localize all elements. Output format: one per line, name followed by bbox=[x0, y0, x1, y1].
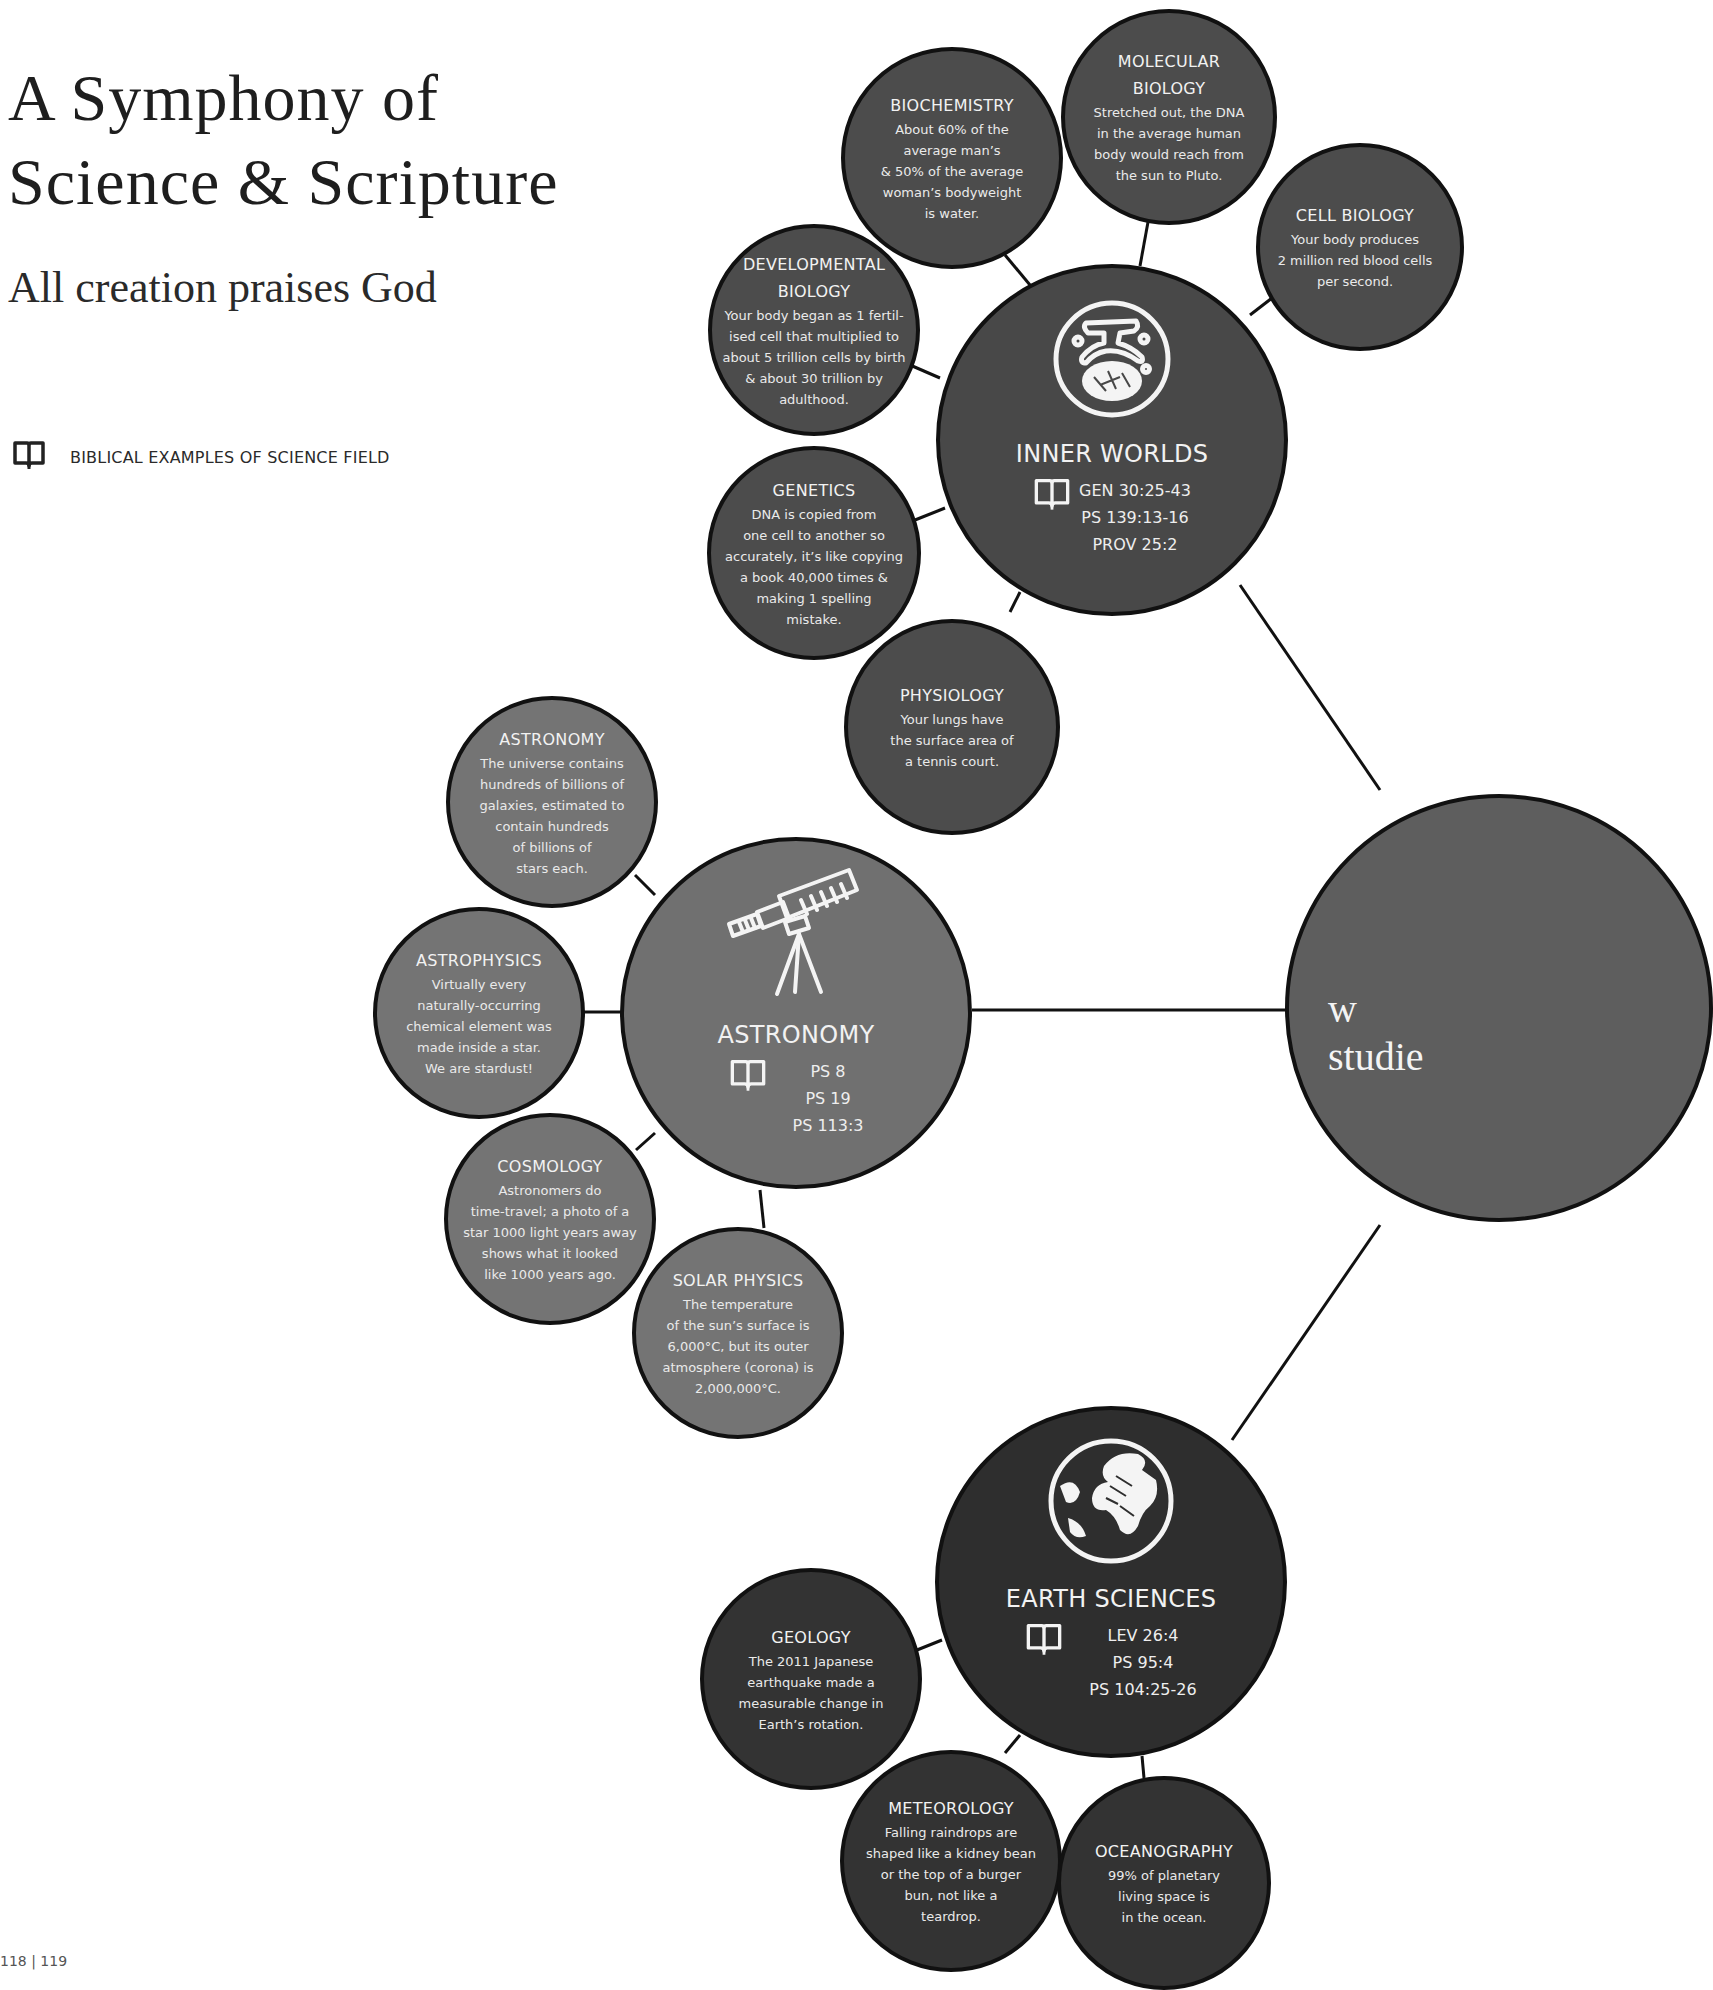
satellite-astronomy: ASTRONOMY The universe contains hundreds… bbox=[446, 696, 658, 908]
satellite-fact: Astronomers do time-travel; a photo of a… bbox=[463, 1180, 637, 1285]
title-line-2: Science & Scripture bbox=[8, 145, 558, 218]
satellite-molecular-biology: MOLECULAR BIOLOGY Stretched out, the DNA… bbox=[1061, 9, 1277, 225]
satellite-title: ASTRONOMY bbox=[499, 726, 604, 753]
satellite-title: SOLAR PHYSICS bbox=[673, 1267, 804, 1294]
satellite-title: MOLECULAR BIOLOGY bbox=[1118, 48, 1220, 102]
page-title: A Symphony of Science & Scripture bbox=[8, 56, 558, 224]
satellite-cell-biology: CELL BIOLOGY Your body produces 2 millio… bbox=[1256, 143, 1464, 351]
open-book-icon bbox=[12, 440, 46, 474]
satellite-fact: The 2011 Japanese earthquake made a meas… bbox=[739, 1651, 884, 1735]
satellite-fact: 99% of planetary living space is in the … bbox=[1108, 1865, 1220, 1928]
scripture-references: LEV 26:4 PS 95:4 PS 104:25-26 bbox=[1025, 1622, 1196, 1703]
satellite-fact: Your lungs have the surface area of a te… bbox=[890, 709, 1013, 772]
main-title: INNER WORLDS bbox=[1016, 439, 1208, 469]
satellite-title: CELL BIOLOGY bbox=[1296, 202, 1414, 229]
open-book-icon bbox=[1025, 1622, 1063, 1660]
scripture-ref: PS 8 bbox=[810, 1058, 845, 1085]
satellite-fact: Falling raindrops are shaped like a kidn… bbox=[866, 1822, 1036, 1927]
scripture-ref: PS 19 bbox=[805, 1085, 850, 1112]
central-text-line-2: studie bbox=[1328, 1034, 1424, 1079]
main-circle-inner-worlds: INNER WORLDS GEN 30:25-43 PS 139:13-16 P… bbox=[936, 264, 1288, 616]
satellite-oceanography: OCEANOGRAPHY 99% of planetary living spa… bbox=[1057, 1776, 1271, 1990]
scripture-ref: PS 139:13-16 bbox=[1081, 504, 1188, 531]
scripture-ref: PS 95:4 bbox=[1113, 1649, 1174, 1676]
satellite-fact: About 60% of the average man’s & 50% of … bbox=[881, 119, 1024, 224]
scripture-ref: GEN 30:25-43 bbox=[1079, 477, 1191, 504]
open-book-icon bbox=[1033, 477, 1071, 515]
scripture-references: PS 8 PS 19 PS 113:3 bbox=[729, 1058, 864, 1139]
satellite-fact: The universe contains hundreds of billio… bbox=[480, 753, 625, 879]
central-text-line-1: w bbox=[1328, 986, 1357, 1031]
satellite-physiology: PHYSIOLOGY Your lungs have the surface a… bbox=[844, 619, 1060, 835]
satellite-title: GEOLOGY bbox=[771, 1624, 851, 1651]
satellite-solar-physics: SOLAR PHYSICS The temperature of the sun… bbox=[632, 1227, 844, 1439]
satellite-fact: Stretched out, the DNA in the average hu… bbox=[1094, 102, 1245, 186]
scripture-ref: PROV 25:2 bbox=[1092, 531, 1177, 558]
cell-icon bbox=[1050, 297, 1174, 425]
main-title: ASTRONOMY bbox=[718, 1020, 875, 1050]
main-title: EARTH SCIENCES bbox=[1006, 1584, 1216, 1614]
scripture-ref: PS 113:3 bbox=[793, 1112, 864, 1139]
satellite-fact: DNA is copied from one cell to another s… bbox=[725, 504, 903, 630]
open-book-icon bbox=[729, 1058, 767, 1096]
satellite-geology: GEOLOGY The 2011 Japanese earthquake mad… bbox=[700, 1568, 922, 1790]
page-subtitle: All creation praises God bbox=[8, 262, 437, 313]
main-circle-earth-sciences: EARTH SCIENCES LEV 26:4 PS 95:4 PS 104:2… bbox=[935, 1406, 1287, 1758]
title-line-1: A Symphony of bbox=[8, 61, 439, 134]
satellite-title: DEVELOPMENTAL BIOLOGY bbox=[743, 251, 885, 305]
satellite-title: PHYSIOLOGY bbox=[900, 682, 1004, 709]
satellite-fact: Your body began as 1 fertil- ised cell t… bbox=[722, 305, 905, 410]
satellite-title: COSMOLOGY bbox=[497, 1153, 602, 1180]
satellite-title: GENETICS bbox=[773, 477, 856, 504]
satellite-title: METEOROLOGY bbox=[888, 1795, 1014, 1822]
central-text: w studie bbox=[1328, 985, 1424, 1081]
scripture-references: GEN 30:25-43 PS 139:13-16 PROV 25:2 bbox=[1033, 477, 1191, 558]
satellite-fact: Your body produces 2 million red blood c… bbox=[1278, 229, 1433, 292]
satellite-genetics: GENETICS DNA is copied from one cell to … bbox=[707, 446, 921, 660]
satellite-astrophysics: ASTROPHYSICS Virtually every naturally-o… bbox=[373, 907, 585, 1119]
satellite-biochemistry: BIOCHEMISTRY About 60% of the average ma… bbox=[841, 47, 1063, 269]
satellite-title: OCEANOGRAPHY bbox=[1095, 1838, 1233, 1865]
satellite-title: BIOCHEMISTRY bbox=[890, 92, 1014, 119]
page-number: 118 | 119 bbox=[0, 1953, 67, 1969]
scripture-ref: PS 104:25-26 bbox=[1089, 1676, 1196, 1703]
satellite-cosmology: COSMOLOGY Astronomers do time-travel; a … bbox=[444, 1113, 656, 1325]
satellite-fact: Virtually every naturally-occurring chem… bbox=[406, 974, 552, 1079]
legend-label: BIBLICAL EXAMPLES OF SCIENCE FIELD bbox=[70, 448, 390, 467]
globe-icon bbox=[1046, 1436, 1176, 1570]
satellite-fact: The temperature of the sun’s surface is … bbox=[662, 1294, 813, 1399]
scripture-ref: LEV 26:4 bbox=[1108, 1622, 1179, 1649]
legend: BIBLICAL EXAMPLES OF SCIENCE FIELD bbox=[12, 440, 390, 474]
satellite-title: ASTROPHYSICS bbox=[416, 947, 542, 974]
satellite-developmental-biology: DEVELOPMENTAL BIOLOGY Your body began as… bbox=[708, 224, 920, 436]
telescope-icon bbox=[721, 862, 871, 1006]
satellite-meteorology: METEOROLOGY Falling raindrops are shaped… bbox=[840, 1750, 1062, 1972]
main-circle-astronomy: ASTRONOMY PS 8 PS 19 PS 113:3 bbox=[620, 837, 972, 1189]
